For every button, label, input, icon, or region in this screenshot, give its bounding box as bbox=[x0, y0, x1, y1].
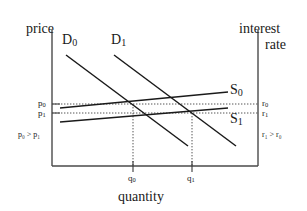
curve-demand-d0 bbox=[66, 55, 188, 146]
diagram-canvas: price interest rate quantity D0 D1 S0 S1… bbox=[0, 0, 307, 211]
annotation-rate-inequality-text: r₁ > r₀ bbox=[262, 130, 281, 139]
curve-label-d0: D0 bbox=[62, 33, 77, 48]
curve-supply-s1 bbox=[60, 108, 228, 122]
curve-label-s1: S1 bbox=[230, 112, 243, 127]
y-tick-label-r1-sub: 1 bbox=[265, 111, 268, 118]
curve-label-s0-sub: 0 bbox=[238, 87, 243, 98]
x-tick-label-q0: q0 bbox=[128, 174, 136, 184]
y-axis-right-title-line1-text: interest bbox=[239, 21, 280, 36]
x-tick-label-q0-sub: 0 bbox=[133, 176, 136, 183]
annotation-price-inequality-text: p₀ > p₁ bbox=[18, 130, 40, 139]
y-axis-right-title-line2: rate bbox=[265, 38, 286, 52]
y-tick-label-r0-sub: 0 bbox=[265, 101, 268, 108]
curve-label-s1-sub: 1 bbox=[238, 116, 243, 127]
y-tick-label-p1-sub: 1 bbox=[43, 111, 46, 118]
curve-label-s0: S0 bbox=[230, 83, 243, 98]
y-axis-right-title-line1: interest bbox=[239, 22, 280, 36]
curve-label-d1-base: D bbox=[111, 32, 121, 47]
y-axis-right-title-line2-text: rate bbox=[265, 37, 286, 52]
curve-label-d1: D1 bbox=[111, 33, 126, 48]
curve-label-d1-sub: 1 bbox=[121, 37, 126, 48]
x-axis-title-text: quantity bbox=[118, 189, 164, 204]
annotation-price-inequality: p₀ > p₁ bbox=[18, 131, 40, 139]
curve-label-s0-base: S bbox=[230, 82, 238, 97]
curve-label-s1-base: S bbox=[230, 111, 238, 126]
curve-label-d0-sub: 0 bbox=[72, 37, 77, 48]
curve-supply-s0 bbox=[60, 92, 228, 108]
x-axis-title: quantity bbox=[118, 190, 164, 204]
annotation-rate-inequality: r₁ > r₀ bbox=[262, 131, 281, 139]
y-tick-label-r1: r1 bbox=[262, 109, 268, 119]
y-axis-left-title: price bbox=[26, 22, 54, 36]
y-tick-label-p1: p1 bbox=[38, 109, 46, 119]
x-tick-label-q1: q1 bbox=[187, 174, 195, 184]
y-axis-left-title-text: price bbox=[26, 21, 54, 36]
x-tick-label-q1-sub: 1 bbox=[192, 176, 195, 183]
curve-label-d0-base: D bbox=[62, 32, 72, 47]
